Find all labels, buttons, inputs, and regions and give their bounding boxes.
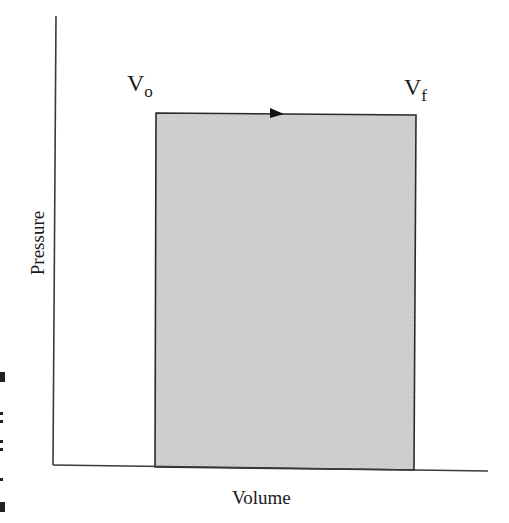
work-area (155, 113, 416, 470)
cropped-caption-marks (0, 372, 6, 512)
initial-volume-label: Vo (127, 70, 153, 97)
y-axis-label: Pressure (27, 198, 49, 288)
pv-diagram (0, 0, 509, 523)
final-volume-label: Vf (404, 74, 427, 101)
y-axis (53, 16, 56, 465)
x-axis-label: Volume (232, 487, 291, 509)
